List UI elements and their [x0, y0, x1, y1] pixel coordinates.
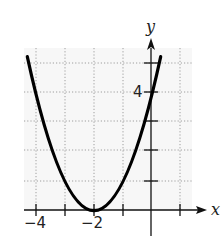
- parabola-chart: −4 −2 4 y x: [0, 0, 223, 246]
- y-axis-label: y: [145, 17, 156, 36]
- y-tick-label-4: 4: [133, 83, 143, 101]
- x-tick-label-minus4: −4: [24, 214, 46, 232]
- x-axis-label: x: [211, 200, 220, 219]
- x-tick-label-minus2: −2: [81, 214, 103, 232]
- plot-area: [24, 48, 192, 210]
